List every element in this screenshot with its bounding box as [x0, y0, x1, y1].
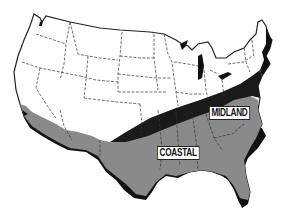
- midland-label: MIDLAND: [209, 106, 250, 120]
- coastal-label: COASTAL: [157, 146, 199, 160]
- us-map: [0, 0, 297, 213]
